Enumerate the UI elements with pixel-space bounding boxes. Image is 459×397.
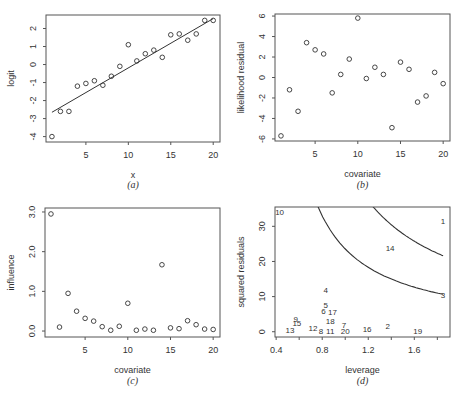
contour-curve-lower	[296, 117, 443, 294]
y-tick-label: 3.0	[27, 206, 37, 219]
x-tick-label: 0.8	[316, 345, 329, 355]
x-tick-label: 5	[313, 149, 318, 159]
data-point	[338, 72, 343, 77]
x-tick-label: 0.4	[270, 345, 283, 355]
x-tick-label: 10	[123, 345, 133, 355]
y-tick-label: -4	[257, 114, 267, 122]
x-tick-label: 15	[166, 150, 176, 160]
data-point	[415, 100, 420, 105]
data-point	[74, 309, 79, 314]
data-point	[84, 81, 89, 86]
plot-frame	[275, 207, 450, 337]
x-tick-label: 15	[165, 345, 175, 355]
data-point	[160, 262, 165, 267]
y-tick-label: 2	[257, 55, 267, 60]
y-tick-label: 0	[257, 75, 267, 80]
point-label: 8	[319, 327, 324, 336]
point-label: 4	[323, 286, 328, 295]
x-tick-label: 1.2	[362, 345, 375, 355]
point-label: 15	[292, 319, 301, 328]
data-point	[347, 57, 352, 62]
y-axis-label: squared residuals	[236, 236, 246, 308]
data-point	[57, 325, 62, 330]
y-tick-label: 1.0	[27, 285, 37, 298]
y-tick-label: -3	[28, 115, 38, 123]
y-tick-label: 4	[257, 34, 267, 39]
data-point	[185, 318, 190, 323]
x-tick-label: 10	[353, 149, 363, 159]
point-label: 1	[441, 217, 446, 226]
panel-caption: (d)	[357, 375, 369, 387]
data-point	[432, 70, 437, 75]
y-tick-label: 10	[257, 292, 267, 302]
panel-c-influence-plot: 51015200.01.02.03.0covariateinfluence(c)	[6, 206, 220, 387]
point-label: 16	[363, 325, 372, 334]
data-point	[313, 48, 318, 53]
data-point	[424, 94, 429, 99]
y-tick-label: -1	[28, 79, 38, 87]
data-point	[168, 326, 173, 331]
data-point	[91, 319, 96, 324]
data-point	[67, 109, 72, 114]
y-tick-label: 1	[28, 44, 38, 49]
y-tick-label: 0	[257, 329, 267, 334]
data-point	[118, 64, 123, 69]
contour-curve-upper	[361, 192, 443, 256]
point-label: 20	[341, 327, 350, 336]
figure: 5101520-4-3-2-1012xlogit(a) 5101520-6-4-…	[0, 0, 459, 397]
y-tick-label: -2	[257, 94, 267, 102]
y-tick-label: 2	[28, 26, 38, 31]
data-point	[185, 38, 190, 43]
data-point	[381, 72, 386, 77]
data-point	[92, 78, 97, 83]
x-tick-label: 5	[83, 150, 88, 160]
data-point	[304, 40, 309, 45]
point-label: 19	[413, 327, 422, 336]
y-tick-label: 6	[257, 14, 267, 19]
data-point	[364, 76, 369, 81]
data-point	[108, 328, 113, 333]
x-tick-label: 1.6	[408, 345, 421, 355]
x-axis-label: leverage	[345, 365, 380, 375]
y-tick-label: 0.0	[27, 325, 37, 338]
y-tick-label: 2.0	[27, 245, 37, 258]
panel-d-squared-residuals-plot: 0.40.81.21.60102030leveragesquared resid…	[236, 117, 450, 387]
y-tick-label: 20	[257, 256, 267, 266]
point-label: 10	[275, 208, 284, 217]
data-point	[177, 326, 182, 331]
plot-frame	[45, 208, 220, 337]
x-axis-label: covariate	[114, 365, 151, 375]
panel-caption: (c)	[127, 375, 139, 387]
data-point	[330, 91, 335, 96]
x-tick-label: 20	[208, 150, 218, 160]
y-axis-label: logit	[6, 70, 16, 87]
point-label: 14	[386, 244, 395, 253]
data-point	[143, 51, 148, 56]
y-tick-label: -2	[28, 97, 38, 105]
y-axis-label: influence	[6, 254, 16, 290]
x-tick-label: 15	[395, 149, 405, 159]
data-point	[101, 83, 106, 88]
data-point	[194, 322, 199, 327]
x-axis-label: covariate	[344, 169, 381, 179]
point-label: 11	[326, 327, 335, 336]
data-point	[168, 33, 173, 38]
x-tick-label: 5	[83, 345, 88, 355]
x-tick-label: 20	[208, 345, 218, 355]
y-tick-label: 0	[28, 62, 38, 67]
data-point	[390, 125, 395, 130]
data-point	[211, 327, 216, 332]
x-tick-label: 10	[123, 150, 133, 160]
plot-frame	[275, 14, 450, 141]
data-point	[126, 42, 131, 47]
data-point	[126, 301, 131, 306]
data-point	[143, 327, 148, 332]
y-tick-label: -6	[257, 135, 267, 143]
data-point	[296, 109, 301, 114]
panel-b-likelihood-residual-plot: 5101520-6-4-20246covariatelikelihood res…	[236, 14, 450, 191]
data-point	[177, 32, 182, 37]
data-point	[202, 18, 207, 23]
data-point	[75, 84, 80, 89]
data-point	[50, 134, 55, 139]
y-tick-label: 30	[257, 221, 267, 231]
